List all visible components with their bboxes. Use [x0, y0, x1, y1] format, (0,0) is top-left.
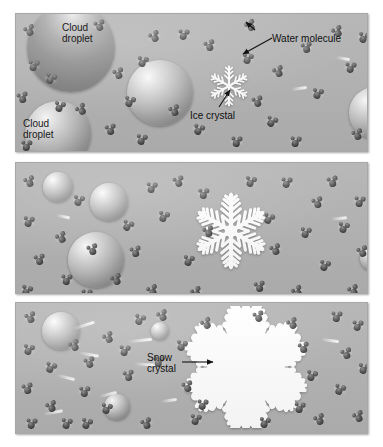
figure-canvas: ClouddropletClouddropletWater moleculeIc… — [0, 0, 383, 447]
label-line-1: Ice crystal — [190, 110, 235, 121]
label-line-1: Cloud — [23, 118, 54, 129]
label-line-2: droplet — [23, 129, 54, 140]
leader-lines-layer — [0, 0, 383, 447]
label-line-1: Water molecule — [272, 33, 341, 44]
label-cloud-droplet-1: Clouddroplet — [62, 22, 93, 44]
label-ice-crystal: Ice crystal — [190, 110, 235, 121]
label-cloud-droplet-2: Clouddroplet — [23, 118, 54, 140]
label-snow-crystal: Snowcrystal — [147, 352, 176, 374]
leader-ice-crystal — [219, 90, 230, 107]
label-line-2: crystal — [147, 363, 176, 374]
label-line-2: droplet — [62, 33, 93, 44]
leader-water-molecule-2 — [246, 22, 255, 30]
label-line-1: Cloud — [62, 22, 93, 33]
label-water-molecule: Water molecule — [272, 33, 341, 44]
leader-water-molecule — [243, 38, 272, 54]
label-line-1: Snow — [147, 352, 176, 363]
